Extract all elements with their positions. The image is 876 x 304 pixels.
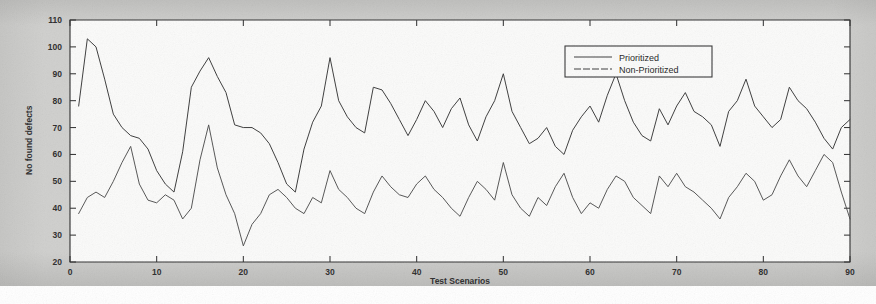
y-tick-label: 70	[53, 123, 63, 133]
y-tick-label: 110	[48, 15, 62, 25]
x-tick-label: 50	[499, 267, 509, 277]
y-axis-tick-labels: 2030405060708090100110	[48, 15, 62, 267]
x-tick-label: 20	[239, 267, 249, 277]
figure-container: 2030405060708090100110 01020304050607080…	[0, 0, 876, 304]
y-tick-label: 30	[53, 230, 63, 240]
y-tick-label: 20	[53, 257, 63, 267]
y-tick-label: 60	[53, 149, 63, 159]
y-tick-label: 90	[53, 69, 63, 79]
chart-canvas: 2030405060708090100110 01020304050607080…	[0, 0, 876, 304]
x-tick-label: 60	[585, 267, 595, 277]
legend-label-prioritized: Prioritized	[619, 53, 659, 63]
x-tick-label: 70	[672, 267, 682, 277]
x-axis-title: Test Scenarios	[430, 276, 490, 286]
x-tick-label: 80	[759, 267, 769, 277]
x-tick-label: 90	[845, 267, 855, 277]
x-tick-label: 30	[325, 267, 335, 277]
y-axis-title: No found defects	[24, 105, 34, 175]
y-tick-label: 50	[53, 176, 63, 186]
legend: Prioritized Non-Prioritized	[565, 46, 712, 77]
x-tick-label: 40	[412, 267, 422, 277]
legend-label-non-prioritized: Non-Prioritized	[619, 65, 679, 75]
y-tick-label: 100	[48, 42, 62, 52]
x-tick-label: 10	[152, 267, 162, 277]
x-tick-label: 0	[68, 267, 73, 277]
y-tick-label: 40	[53, 203, 63, 213]
y-tick-label: 80	[53, 96, 63, 106]
plot-area	[70, 20, 850, 262]
